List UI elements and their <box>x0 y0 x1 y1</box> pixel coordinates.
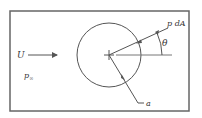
radius-a-label: a <box>146 99 151 108</box>
velocity-label: U <box>17 50 25 60</box>
diagram-frame <box>10 11 189 111</box>
angle-theta-label: θ <box>162 38 168 48</box>
cylinder-flow-diagram: U p∞ p dA θ a <box>0 0 202 118</box>
theta-arc-arrow-icon <box>155 30 159 35</box>
pressure-force-label: p dA <box>167 19 186 28</box>
pressure-inf-label: p∞ <box>24 71 33 81</box>
